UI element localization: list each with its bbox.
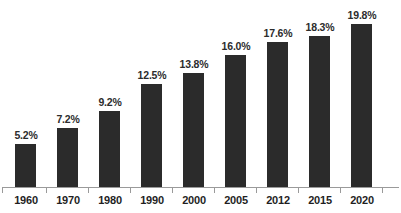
bar: [309, 36, 330, 187]
x-axis-tick-label: 2012: [257, 194, 299, 206]
bar: [141, 84, 162, 187]
bar-value-label: 7.2%: [44, 113, 92, 125]
bar-group: 19.8%: [341, 0, 383, 187]
bar-value-label: 9.2%: [86, 96, 134, 108]
bar: [225, 55, 246, 187]
x-axis-tick-label: 2005: [215, 194, 257, 206]
x-axis-tick: [382, 188, 383, 193]
bar-value-label: 17.6%: [254, 27, 302, 39]
bar-value-label: 19.8%: [338, 9, 386, 21]
bar-group: 7.2%: [47, 0, 89, 187]
bar-value-label: 13.8%: [170, 58, 218, 70]
bar-value-label: 12.5%: [128, 69, 176, 81]
bar-group: 12.5%: [131, 0, 173, 187]
bar: [183, 73, 204, 187]
x-axis-tick-label: 1980: [89, 194, 131, 206]
x-axis-tick-label: 2015: [299, 194, 341, 206]
bar-value-label: 16.0%: [212, 40, 260, 52]
bar: [57, 128, 78, 187]
bar: [351, 24, 372, 187]
bar: [99, 111, 120, 187]
bar-value-label: 5.2%: [2, 129, 50, 141]
x-axis-tick-label: 1960: [5, 194, 47, 206]
x-axis-tick: [88, 188, 89, 193]
x-axis-tick: [256, 188, 257, 193]
bar-group: 17.6%: [257, 0, 299, 187]
bar: [267, 42, 288, 187]
bar-group: 13.8%: [173, 0, 215, 187]
bar-chart: 5.2%7.2%9.2%12.5%13.8%16.0%17.6%18.3%19.…: [0, 0, 401, 213]
x-axis-tick: [214, 188, 215, 193]
x-axis-tick: [340, 188, 341, 193]
x-axis-tick-label: 1970: [47, 194, 89, 206]
x-axis-tick-label: 2000: [173, 194, 215, 206]
bar-group: 18.3%: [299, 0, 341, 187]
bar-group: 9.2%: [89, 0, 131, 187]
x-axis-tick: [46, 188, 47, 193]
bar-group: 16.0%: [215, 0, 257, 187]
x-axis-tick-label: 2020: [341, 194, 383, 206]
x-axis-tick: [130, 188, 131, 193]
x-axis-tick: [2, 188, 3, 193]
x-axis-tick-label: 1990: [131, 194, 173, 206]
bar-group: 5.2%: [5, 0, 47, 187]
x-axis-tick: [298, 188, 299, 193]
bar: [15, 144, 36, 187]
x-axis-labels: 196019701980199020002005201220152020: [0, 194, 401, 213]
bar-value-label: 18.3%: [296, 21, 344, 33]
plot-area: 5.2%7.2%9.2%12.5%13.8%16.0%17.6%18.3%19.…: [0, 0, 401, 187]
x-axis-tick: [172, 188, 173, 193]
